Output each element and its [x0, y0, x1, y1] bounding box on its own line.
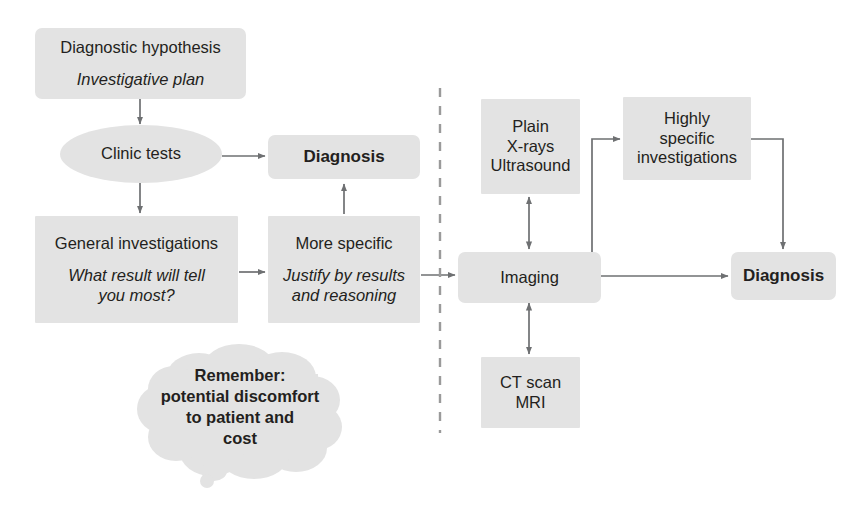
edge-highly-specific-to-diagnosis-right — [751, 139, 783, 249]
flowchart-canvas: Diagnostic hypothesis Investigative plan… — [0, 0, 859, 511]
node-line: to patient and — [186, 407, 294, 428]
node-line: Plain — [512, 117, 549, 136]
node-diagnostic-hypothesis[interactable]: Diagnostic hypothesis Investigative plan — [35, 28, 246, 99]
node-line: Remember: — [195, 365, 286, 386]
node-line: you most? — [98, 286, 174, 305]
node-line: Imaging — [500, 268, 559, 287]
node-line: Diagnosis — [303, 147, 384, 167]
node-line: specific — [659, 129, 714, 148]
node-line: Investigative plan — [77, 70, 205, 89]
node-line: Ultrasound — [491, 156, 571, 175]
node-more-specific[interactable]: More specific Justify by results and rea… — [268, 216, 420, 323]
node-imaging[interactable]: Imaging — [458, 252, 601, 303]
node-line: Justify by results — [283, 266, 405, 285]
node-line: potential discomfort — [161, 386, 320, 407]
node-line: CT scan — [500, 373, 561, 392]
edge-imaging-to-highly-specific — [592, 139, 620, 252]
node-line: Clinic tests — [101, 144, 181, 163]
node-diagnosis-right[interactable]: Diagnosis — [731, 252, 836, 300]
node-line: What result will tell — [68, 266, 205, 285]
node-line: and reasoning — [292, 286, 397, 305]
node-general-investigations[interactable]: General investigations What result will … — [35, 216, 238, 323]
node-line: investigations — [637, 148, 737, 167]
node-line: Diagnosis — [743, 266, 824, 286]
node-remember-cloud[interactable]: Remember: potential discomfort to patien… — [136, 342, 344, 488]
node-highly-specific-investigations[interactable]: Highly specific investigations — [623, 97, 751, 180]
node-line: cost — [223, 428, 257, 449]
node-line: General investigations — [55, 234, 218, 253]
thought-cloud-text: Remember: potential discomfort to patien… — [136, 342, 344, 488]
node-line: Diagnostic hypothesis — [60, 38, 221, 57]
node-line: MRI — [515, 393, 545, 412]
node-diagnosis-left[interactable]: Diagnosis — [268, 135, 420, 179]
node-plain-xrays-ultrasound[interactable]: Plain X-rays Ultrasound — [481, 99, 580, 194]
node-line: X-rays — [507, 137, 555, 156]
node-line: More specific — [295, 234, 392, 253]
node-clinic-tests[interactable]: Clinic tests — [60, 125, 222, 183]
node-ct-scan-mri[interactable]: CT scan MRI — [481, 357, 580, 428]
node-line: Highly — [664, 109, 710, 128]
